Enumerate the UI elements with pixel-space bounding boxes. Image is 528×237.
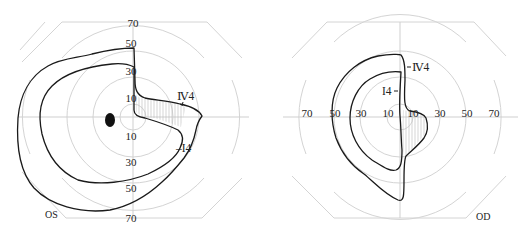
right-label-iv4: Ⅳ4 xyxy=(412,61,429,73)
left-tick-bottom-50: 50 xyxy=(126,182,138,194)
left-tick-bottom-30: 30 xyxy=(126,156,138,168)
right-tick-left-70: 70 xyxy=(302,107,314,119)
right-label-i4: I4 xyxy=(382,85,392,97)
left-tick-bottom-70: 70 xyxy=(126,212,138,224)
left-label-iv4: Ⅳ4 xyxy=(177,90,194,102)
right-eye-label: OD xyxy=(476,211,490,222)
left-tick-bottom-10: 10 xyxy=(126,130,138,142)
left-blind-spot xyxy=(105,113,115,127)
left-field-chart: 70 50 30 10 10 30 50 70 Ⅳ4 –I4 OS xyxy=(18,17,249,224)
right-tick-left-50: 50 xyxy=(330,107,342,119)
left-tick-top-70: 70 xyxy=(128,17,140,29)
left-tick-top-50: 50 xyxy=(126,37,138,49)
visual-field-figure: 70 50 30 10 10 30 50 70 Ⅳ4 –I4 OS 70 50 … xyxy=(0,0,528,237)
left-label-i4: –I4 xyxy=(175,142,192,154)
left-tick-top-30: 30 xyxy=(126,65,138,77)
right-tick-left-30: 30 xyxy=(356,107,368,119)
right-tick-right-70: 70 xyxy=(489,107,501,119)
left-tick-top-10: 10 xyxy=(126,92,138,104)
left-eye-label: OS xyxy=(45,209,58,220)
left-isopter-iv4 xyxy=(18,48,202,211)
right-isopter-i4 xyxy=(350,72,402,171)
right-field-chart: 70 50 30 10 10 30 50 70 Ⅳ4 I4 OD xyxy=(283,15,518,222)
right-tick-left-10: 10 xyxy=(383,107,395,119)
right-tick-right-30: 30 xyxy=(435,107,447,119)
right-tick-right-10: 10 xyxy=(408,107,420,119)
right-tick-right-50: 50 xyxy=(462,107,474,119)
